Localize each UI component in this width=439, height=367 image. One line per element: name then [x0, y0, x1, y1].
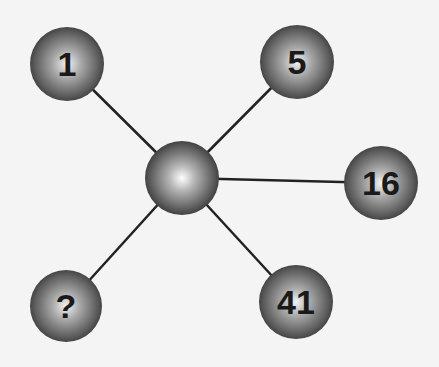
- node-label: 1: [58, 45, 77, 83]
- puzzle-diagram: 1516?41: [0, 0, 439, 367]
- number-node-n5: 5: [260, 25, 334, 99]
- number-node-nq: ?: [30, 270, 102, 342]
- sphere-shape: [145, 141, 219, 215]
- node-label: 16: [362, 164, 400, 202]
- center-node: [145, 141, 219, 215]
- diagram-canvas: 1516?41: [0, 0, 439, 367]
- number-node-n16: 16: [344, 146, 418, 220]
- edges-group: [66, 62, 381, 306]
- number-node-n1: 1: [30, 27, 104, 101]
- node-label: 41: [277, 283, 315, 321]
- node-label: ?: [56, 287, 77, 325]
- nodes-group: 1516?41: [30, 25, 418, 342]
- number-node-n41: 41: [259, 265, 333, 339]
- node-label: 5: [288, 43, 307, 81]
